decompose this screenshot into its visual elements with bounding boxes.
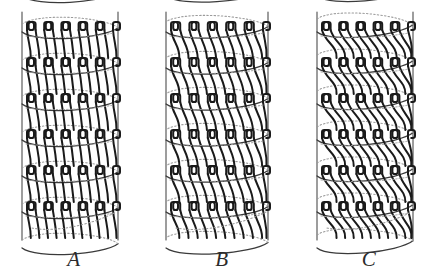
panel-b-label: B: [148, 247, 296, 272]
panel-c-label: C: [295, 247, 443, 272]
panel-b-drawing: [148, 0, 296, 276]
panel-a: A: [0, 0, 148, 276]
panel-a-drawing: [0, 0, 148, 276]
panel-a-label: A: [0, 247, 148, 272]
panel-c-drawing: [295, 0, 443, 276]
panel-c: C: [295, 0, 443, 276]
figure-root: A B C: [0, 0, 443, 276]
panel-b: B: [148, 0, 296, 276]
